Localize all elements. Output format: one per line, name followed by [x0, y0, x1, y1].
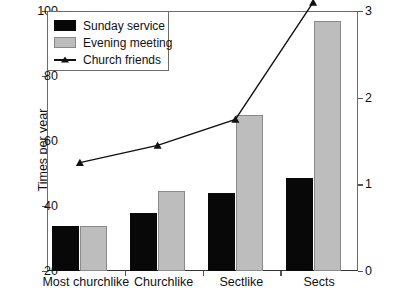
legend-item: Evening meeting — [54, 34, 162, 51]
right-tick-label: 3 — [365, 4, 372, 18]
legend-swatch-icon — [54, 20, 76, 31]
legend-line-icon — [54, 54, 76, 65]
x-axis-label: Sects — [303, 275, 334, 289]
legend-item: Sunday service — [54, 17, 162, 34]
x-axis-label: Sectlike — [219, 275, 263, 289]
right-tick — [358, 11, 363, 12]
left-tick-label: 60 — [44, 134, 58, 148]
legend-label: Church friends — [83, 53, 161, 67]
x-axis-label: Most churchlike — [42, 275, 129, 289]
line-marker-triangle — [309, 0, 317, 6]
legend-label: Sunday service — [83, 19, 165, 33]
right-tick — [358, 271, 363, 272]
right-tick — [358, 184, 363, 185]
left-tick-label: 40 — [44, 199, 58, 213]
line-marker-triangle — [231, 116, 239, 123]
chart-root: Times per year Number of friends 2040608… — [0, 0, 411, 299]
left-tick-label: 80 — [44, 69, 58, 83]
x-tick — [203, 271, 204, 276]
chart-legend: Sunday serviceEvening meetingChurch frie… — [47, 11, 169, 71]
right-tick-label: 0 — [365, 264, 372, 278]
right-tick-label: 2 — [365, 91, 372, 105]
x-tick — [280, 271, 281, 276]
right-tick — [358, 98, 363, 99]
legend-swatch-icon — [54, 37, 76, 48]
x-axis-label: Churchlike — [134, 275, 193, 289]
legend-label: Evening meeting — [83, 36, 172, 50]
legend-item: Church friends — [54, 51, 162, 68]
right-tick-label: 1 — [365, 177, 372, 191]
